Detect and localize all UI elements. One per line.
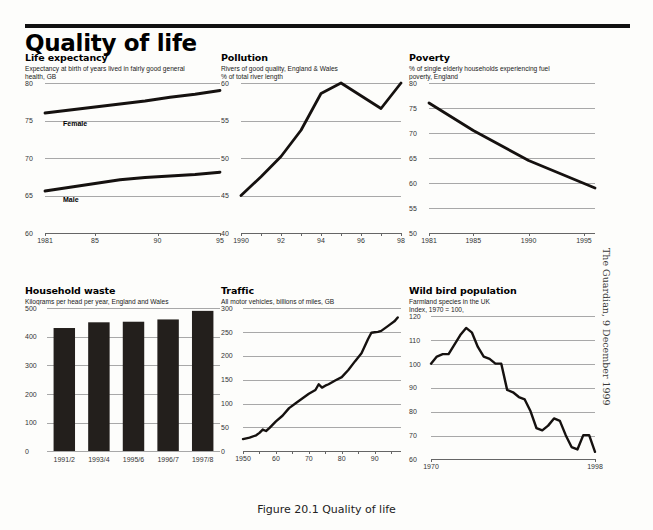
chart-poverty: 807570656055501981198519901995 [409,83,599,255]
x-axis-category-label: 1993/4 [88,456,109,463]
bar [54,328,75,451]
x-axis-tick [595,459,596,462]
panel-subtitle-wild-bird: Farmland species in the UK Index, 1970 =… [409,298,599,314]
panel-title-traffic: Traffic [221,285,406,296]
x-axis-category-label: 1995/6 [123,456,144,463]
data-line [243,318,398,440]
panel-subtitle-household-waste: Kilograms per head per year, England and… [25,298,220,306]
panel-title-household-waste: Household waste [25,285,220,296]
bar [192,311,213,451]
data-line [241,83,401,196]
panel-poverty: Poverty % of single elderly households e… [409,52,599,255]
chart-series-layer [221,83,401,255]
data-line [45,91,220,114]
chart-series-layer [409,83,595,255]
source-credit: The Guardian, 9 December 1999 [601,248,612,406]
panel-title-pollution: Pollution [221,52,406,63]
data-line [431,328,595,452]
panel-pollution: Pollution Rivers of good quality, Englan… [221,52,406,255]
figure-caption: Figure 20.1 Quality of life [0,503,653,516]
x-axis-category-label: 1991/2 [54,456,75,463]
chart-wild-bird: 1201101009080706019701998 [409,316,599,481]
panel-life-expectancy: Life expectancy Expectancy at birth of y… [25,52,220,255]
panel-subtitle-traffic: All motor vehicles, billions of miles, G… [221,298,406,306]
x-axis-tick [401,233,402,236]
header-rule [25,24,630,28]
chart-pollution: 6055504540199092949698 [221,83,406,255]
chart-household-waste: 50040030020010001991/21993/41995/61996/7… [25,308,220,473]
x-axis-category-label: 1996/7 [157,456,178,463]
bar [88,323,109,452]
series-label-female: Female [63,120,87,127]
bar [157,320,178,452]
data-line [429,103,595,188]
panel-wild-bird: Wild bird population Farmland species in… [409,285,599,481]
figure-page: Quality of life Life expectancy Expectan… [0,0,653,530]
x-axis-category-label: 1997/8 [192,456,213,463]
panel-title-poverty: Poverty [409,52,599,63]
series-label-male: Male [63,196,79,203]
panel-traffic: Traffic All motor vehicles, billions of … [221,285,406,473]
panel-title-wild-bird: Wild bird population [409,285,599,296]
panel-subtitle-pollution: Rivers of good quality, England & Wales … [221,65,406,81]
chart-series-layer [409,316,595,481]
panel-subtitle-life-expectancy: Expectancy at birth of years lived in fa… [25,65,220,81]
chart-traffic: 300250200150100500195060708090 [221,308,406,473]
panel-title-life-expectancy: Life expectancy [25,52,220,63]
chart-bars-layer [25,308,220,473]
panel-household-waste: Household waste Kilograms per head per y… [25,285,220,473]
panel-subtitle-poverty: % of single elderly households experienc… [409,65,599,81]
chart-life-expectancy: 80757065601981859095FemaleMale [25,83,220,255]
data-line [45,173,220,192]
chart-series-layer [25,83,220,255]
chart-series-layer [221,308,401,473]
bar [123,322,144,451]
